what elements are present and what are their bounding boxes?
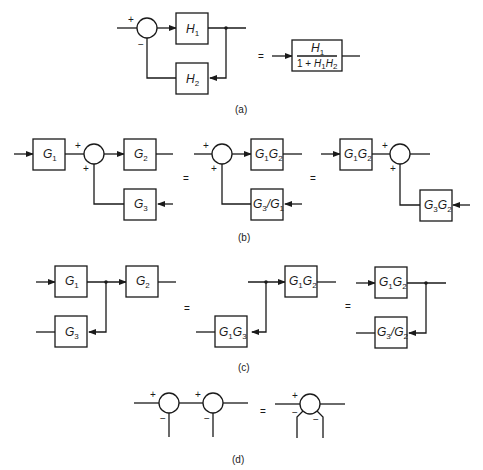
caption-a: (a) bbox=[235, 104, 247, 115]
summing-junction bbox=[212, 144, 232, 164]
equals-sign: = bbox=[345, 301, 351, 312]
panel-b-diagram-3: G1G2 + + G3G2 bbox=[321, 139, 470, 221]
plus-sign: + bbox=[150, 389, 156, 400]
minus-sign: − bbox=[160, 413, 166, 424]
minus-sign: − bbox=[138, 39, 144, 50]
equals-sign: = bbox=[258, 51, 264, 62]
panel-b-diagram-1: G1 + + G2 G3 bbox=[14, 139, 173, 220]
plus-sign: + bbox=[195, 389, 201, 400]
minus-sign: − bbox=[204, 413, 210, 424]
panel-d-right-combined-junction: + − − bbox=[275, 390, 345, 438]
panel-b: G1 + + G2 G3 = + + G1G2 G3/G bbox=[14, 139, 470, 243]
panel-d: + − + − = + − − (d) bbox=[134, 389, 345, 465]
panel-b-diagram-2: + + G1G2 G3/G1 bbox=[194, 139, 302, 220]
panel-c-diagram-1: G1 G2 G3 bbox=[36, 266, 176, 347]
equals-sign: = bbox=[183, 173, 189, 184]
panel-c-diagram-3: G1G2 G3/G2 bbox=[356, 267, 446, 348]
equals-sign: = bbox=[184, 303, 190, 314]
caption-b: (b) bbox=[238, 232, 250, 243]
summing-junction bbox=[159, 393, 179, 413]
plus-sign: + bbox=[128, 14, 134, 25]
panel-a-left-feedback-loop: + − H1 H2 bbox=[117, 13, 246, 94]
panel-a-right-equivalent: H1 1 + H1H2 bbox=[272, 40, 360, 71]
caption-c: (c) bbox=[238, 362, 250, 373]
plus-sign: + bbox=[390, 163, 396, 174]
panel-c: G1 G2 G3 = G1G2 G1G3 = bbox=[36, 266, 446, 373]
minus-sign: − bbox=[313, 414, 319, 425]
plus-sign: + bbox=[292, 390, 298, 401]
plus-sign: + bbox=[75, 140, 81, 151]
summing-junction bbox=[390, 144, 410, 164]
summing-junction bbox=[203, 393, 223, 413]
summing-junction bbox=[84, 144, 104, 164]
equals-sign: = bbox=[310, 173, 316, 184]
block-diagram-figure: + − H1 H2 = H1 1 + H1H2 (a) bbox=[0, 0, 483, 470]
panel-c-diagram-2: G1G2 G1G3 bbox=[196, 266, 336, 347]
summing-junction bbox=[137, 18, 157, 38]
plus-sign: + bbox=[211, 163, 217, 174]
plus-sign: + bbox=[203, 140, 209, 151]
caption-d: (d) bbox=[232, 454, 244, 465]
panel-a: + − H1 H2 = H1 1 + H1H2 (a) bbox=[117, 13, 360, 115]
equals-sign: = bbox=[260, 406, 266, 417]
panel-d-left-cascaded-junctions: + − + − bbox=[134, 389, 248, 437]
plus-sign: + bbox=[83, 163, 89, 174]
plus-sign: + bbox=[382, 140, 388, 151]
